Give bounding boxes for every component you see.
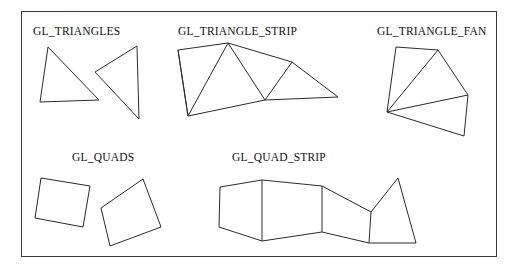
caption-gl-quad-strip: GL_QUAD_STRIP [232, 152, 326, 164]
figure-border-frame [21, 11, 497, 257]
caption-gl-triangle-strip: GL_TRIANGLE_STRIP [178, 26, 297, 38]
caption-gl-triangle-fan: GL_TRIANGLE_FAN [377, 26, 486, 38]
caption-gl-quads: GL_QUADS [72, 152, 134, 164]
caption-gl-triangles: GL_TRIANGLES [33, 26, 120, 38]
opengl-primitives-figure: GL_TRIANGLES GL_TRIANGLE_STRIP GL_TRIANG… [0, 0, 524, 273]
